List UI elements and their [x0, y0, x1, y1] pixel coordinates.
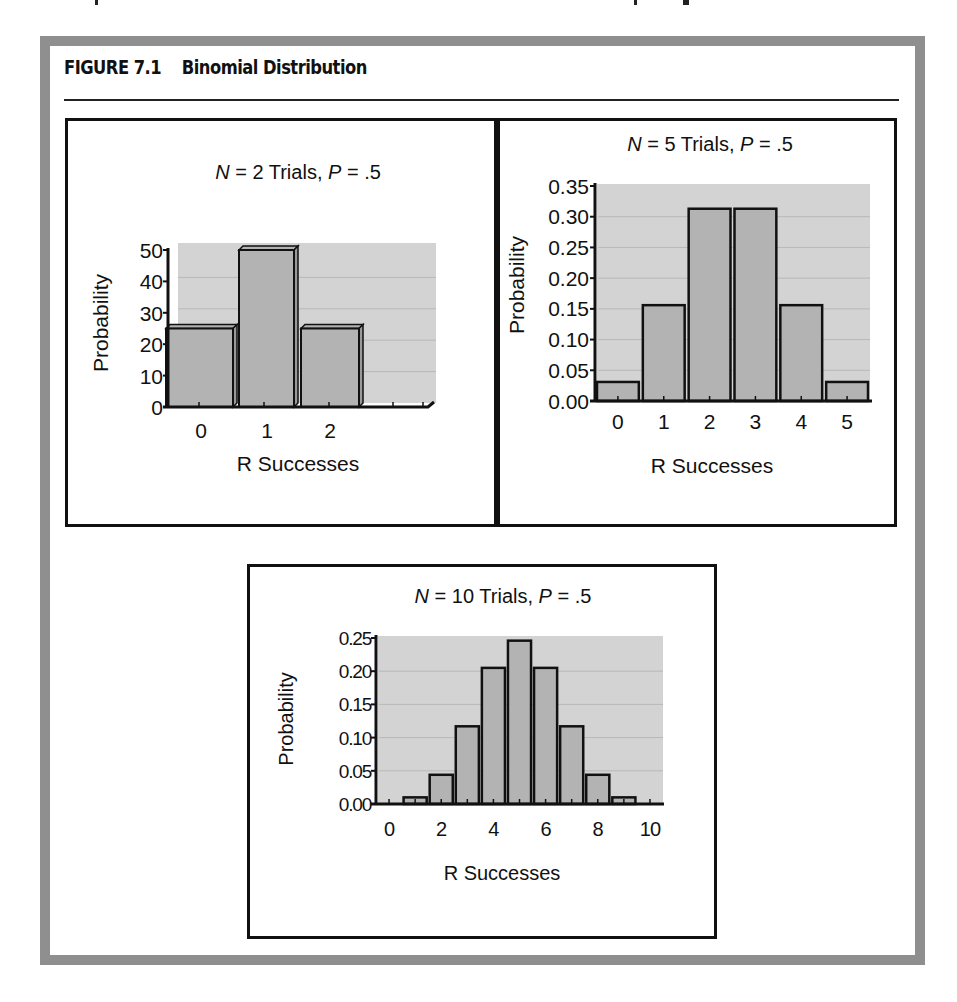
y-tick-label: 0.20 [548, 267, 589, 290]
x-tick-label: 10 [640, 818, 661, 840]
y-tick-label: 0.35 [548, 175, 589, 198]
chart-n5: N = 5 Trials, P = .50.000.050.100.150.20… [500, 121, 903, 530]
x-tick-label: 1 [261, 419, 273, 442]
x-tick-label: 4 [488, 818, 499, 840]
bar-0 [166, 329, 233, 408]
y-tick-label: 0.05 [548, 359, 589, 382]
bar-3 [456, 726, 479, 804]
y-tick-label: 0.15 [548, 297, 589, 320]
y-tick-label: 0.30 [548, 205, 589, 228]
descender-fragment [683, 0, 689, 5]
y-axis-label: Probability [89, 273, 112, 372]
bar-7 [560, 726, 583, 804]
chart-n10: N = 10 Trials, P = .50.000.050.100.150.2… [250, 567, 720, 942]
x-tick-label: 2 [324, 419, 336, 442]
x-tick-label: 1 [658, 410, 670, 433]
chart-title: N = 5 Trials, P = .5 [627, 133, 793, 155]
clipped-text-fragment [0, 0, 957, 10]
heading-rule [64, 99, 899, 101]
y-tick-label: 40 [140, 270, 163, 293]
x-tick-label: 2 [436, 818, 447, 840]
bar-1 [643, 305, 685, 401]
x-axis-label: R Successes [237, 452, 360, 475]
x-tick-label: 0 [195, 419, 207, 442]
chart-title: N = 10 Trials, P = .5 [415, 585, 592, 607]
chart-n2: N = 2 Trials, P = .501020304050012R Succ… [68, 121, 502, 530]
bar-5 [508, 641, 531, 804]
x-tick-label: 0 [612, 410, 624, 433]
x-axis-label: R Successes [651, 454, 774, 477]
chart-title: N = 2 Trials, P = .5 [215, 161, 381, 183]
figure-number: FIGURE 7.1 [64, 56, 161, 78]
figure-heading: FIGURE 7.1 Binomial Distribution [64, 56, 367, 78]
descender-fragment [634, 0, 637, 5]
x-tick-label: 3 [750, 410, 762, 433]
bar-2 [301, 329, 359, 408]
x-tick-label: 2 [704, 410, 716, 433]
y-tick-label: 0 [151, 396, 163, 419]
y-tick-label: 0.10 [339, 728, 372, 749]
bar-4 [482, 668, 505, 804]
y-axis-label: Probability [505, 235, 528, 334]
x-tick-label: 8 [593, 818, 604, 840]
y-axis-label: Probability [275, 672, 297, 765]
y-tick-label: 0.25 [339, 628, 372, 649]
x-tick-label: 0 [384, 818, 395, 840]
bar-2 [689, 209, 731, 401]
chart-panel-n10: N = 10 Trials, P = .50.000.050.100.150.2… [247, 564, 717, 939]
y-tick-label: 10 [140, 365, 163, 388]
bar-3 [735, 209, 777, 401]
y-tick-label: 20 [140, 333, 163, 356]
y-tick-label: 0.15 [339, 694, 372, 715]
chart-panel-n5: N = 5 Trials, P = .50.000.050.100.150.20… [494, 118, 897, 527]
bar-6 [534, 668, 557, 804]
chart-panel-n2: N = 2 Trials, P = .501020304050012R Succ… [65, 118, 499, 527]
figure-title: Binomial Distribution [182, 56, 367, 78]
y-tick-label: 0.25 [548, 236, 589, 259]
y-tick-label: 0.20 [339, 661, 372, 682]
y-tick-label: 0.00 [548, 390, 589, 413]
y-tick-label: 0.05 [339, 761, 372, 782]
x-tick-label: 6 [540, 818, 551, 840]
y-tick-label: 0.00 [339, 794, 372, 815]
y-tick-label: 30 [140, 302, 163, 325]
bar-1 [239, 250, 294, 407]
x-axis-label: R Successes [444, 862, 561, 884]
descender-fragment [95, 0, 98, 5]
x-tick-label: 5 [841, 410, 853, 433]
y-tick-label: 50 [140, 239, 163, 262]
x-tick-label: 4 [795, 410, 807, 433]
y-tick-label: 0.10 [548, 328, 589, 351]
bar-4 [780, 305, 822, 401]
